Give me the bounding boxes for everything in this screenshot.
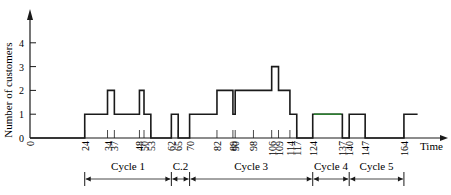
cycle-annotation: C.2 — [172, 160, 188, 182]
arrow-left-icon — [314, 177, 319, 182]
x-tick-label: 65 — [173, 141, 184, 151]
arrow-left-icon — [172, 177, 177, 182]
cycle-label: C.2 — [173, 160, 189, 172]
arrow-left-icon — [86, 177, 91, 182]
x-tick-label: 0 — [25, 141, 36, 146]
arrow-right-icon — [398, 177, 403, 182]
cycle-annotation: Cycle 4 — [314, 160, 349, 182]
arrow-right-icon — [343, 177, 348, 182]
x-tick-label: 109 — [274, 141, 285, 156]
x-tick-label: 24 — [80, 141, 91, 151]
customer-step-chart: 01234 0243437485053626570828990981061091… — [0, 0, 451, 195]
x-tick-label: 37 — [109, 141, 120, 151]
step-line — [30, 67, 418, 138]
y-axis-arrow-icon — [27, 9, 33, 20]
y-tick-label: 4 — [19, 38, 24, 49]
x-tick-label: 98 — [248, 141, 259, 151]
x-axis-ticks: 0243437485053626570828990981061091141171… — [25, 130, 410, 156]
cycle-label: Cycle 4 — [314, 160, 348, 172]
y-tick-label: 2 — [19, 85, 24, 96]
x-tick-label: 147 — [360, 141, 371, 156]
cycle-label: Cycle 1 — [111, 160, 145, 172]
y-tick-label: 0 — [19, 133, 24, 144]
arrow-left-icon — [350, 177, 355, 182]
y-tick-label: 3 — [19, 62, 24, 73]
x-tick-label: 53 — [146, 141, 157, 151]
x-tick-label: 140 — [344, 141, 355, 156]
cycle-label: Cycle 3 — [234, 160, 268, 172]
cycle-annotation: Cycle 3 — [191, 160, 312, 182]
arrow-left-icon — [191, 177, 196, 182]
cycle-annotation: Cycle 5 — [350, 160, 403, 182]
y-axis-ticks: 01234 — [19, 38, 36, 144]
arrow-right-icon — [165, 177, 170, 182]
cycle-annotation: Cycle 1 — [86, 160, 171, 182]
y-tick-label: 1 — [19, 109, 24, 120]
x-tick-label: 117 — [292, 141, 303, 156]
x-tick-label: 82 — [212, 141, 223, 151]
arrow-right-icon — [307, 177, 312, 182]
x-axis-label: Time — [420, 140, 443, 152]
arrow-right-icon — [184, 177, 189, 182]
x-tick-label: 70 — [185, 141, 196, 151]
cycle-label: Cycle 5 — [360, 160, 394, 172]
data-series — [30, 67, 418, 138]
x-tick-label: 90 — [230, 141, 241, 151]
x-tick-label: 124 — [308, 141, 319, 156]
x-tick-label: 164 — [399, 141, 410, 156]
cycle-annotations: Cycle 1C.2Cycle 3Cycle 4Cycle 5 — [85, 160, 404, 186]
y-axis-label: Number of customers — [2, 42, 14, 137]
axes — [27, 9, 448, 141]
